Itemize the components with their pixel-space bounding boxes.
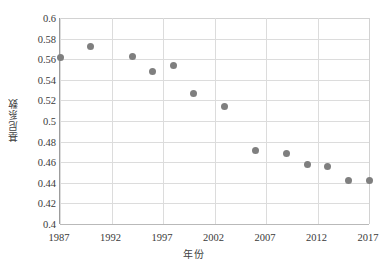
data-point: [149, 68, 156, 75]
x-axis-title: 年份: [0, 246, 387, 261]
gini-coefficient-scatter-chart: 基尼系数 0.40.420.440.460.480.50.520.540.560…: [0, 0, 387, 271]
x-axis-tick-label: 2002: [203, 232, 224, 243]
data-point: [366, 177, 373, 184]
data-point: [57, 54, 64, 61]
y-axis-title-label: 基尼系数: [8, 98, 19, 142]
data-point: [170, 62, 177, 69]
y-axis-tick-label: 0.54: [22, 74, 56, 85]
y-axis-tick-label: 0.44: [22, 177, 56, 188]
y-axis-tick-label: 0.42: [22, 198, 56, 209]
x-gridline: [112, 18, 113, 224]
data-point: [252, 147, 259, 154]
x-gridline: [266, 18, 267, 224]
y-axis-tick-label: 0.4: [22, 219, 56, 230]
x-gridline: [215, 18, 216, 224]
y-gridline: [60, 224, 369, 225]
x-gridline: [369, 18, 370, 224]
y-axis-tick-label: 0.56: [22, 54, 56, 65]
data-point: [129, 53, 136, 60]
y-axis-tick-label: 0.52: [22, 95, 56, 106]
y-axis-tick-label: 0.48: [22, 136, 56, 147]
x-axis-tick-label: 2017: [358, 232, 379, 243]
x-gridline: [318, 18, 319, 224]
y-axis-tick-label: 0.6: [22, 13, 56, 24]
plot-area: [59, 18, 369, 224]
y-axis-tick-label: 0.46: [22, 157, 56, 168]
y-axis-tick-labels: 0.40.420.440.460.480.50.520.540.560.580.…: [22, 0, 56, 271]
data-point: [304, 161, 311, 168]
x-gridline: [163, 18, 164, 224]
x-axis-tick-label: 1987: [49, 232, 70, 243]
data-point: [87, 43, 94, 50]
x-axis-tick-label: 2007: [255, 232, 276, 243]
data-point: [324, 163, 331, 170]
data-point: [283, 150, 290, 157]
x-axis-tick-label: 1997: [152, 232, 173, 243]
data-point: [190, 90, 197, 97]
y-axis-tick-label: 0.58: [22, 33, 56, 44]
x-gridline: [60, 18, 61, 224]
y-axis-tick-label: 0.5: [22, 116, 56, 127]
x-axis-tick-label: 1992: [100, 232, 121, 243]
data-point: [221, 103, 228, 110]
x-axis-tick-label: 2012: [306, 232, 327, 243]
y-axis-title: 基尼系数: [2, 0, 24, 240]
